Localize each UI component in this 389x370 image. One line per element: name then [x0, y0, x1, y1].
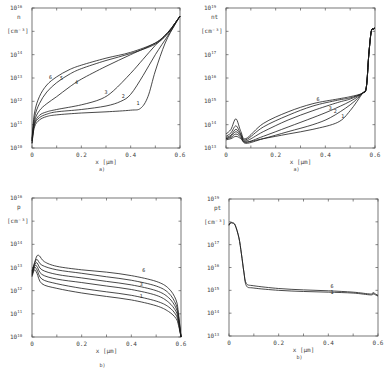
y-tick-label: 1016 — [10, 4, 23, 12]
y-tick-label: 1011 — [10, 120, 23, 128]
y-tick-label: 1013 — [204, 144, 217, 152]
x-tick-label: 0.2 — [76, 151, 87, 158]
plot-frame — [229, 199, 378, 336]
y-axis-name: p — [17, 203, 21, 211]
y-tick-label: 1017 — [207, 240, 220, 248]
y-tick-label: 1016 — [204, 74, 217, 82]
x-tick-label: 0.4 — [125, 151, 136, 158]
x-tick-label: 0 — [30, 340, 34, 347]
panel-caption: b) — [99, 362, 105, 368]
plot-frame — [226, 8, 375, 148]
panel-caption: a) — [293, 166, 299, 172]
x-axis-label: x [µm] — [290, 158, 312, 166]
y-tick-label: 1019 — [207, 195, 220, 203]
curve-label: 6 — [331, 283, 334, 289]
y-axis-unit: [cm⁻³] — [7, 27, 29, 34]
y-axis-unit: [cm⁻³] — [7, 217, 29, 224]
x-tick-label: 0.6 — [176, 340, 187, 347]
x-tick-label: 0.2 — [76, 340, 87, 347]
y-tick-label: 1016 — [10, 194, 23, 202]
x-tick-label: 0.6 — [370, 151, 381, 158]
x-tick-label: 0 — [224, 151, 228, 158]
x-tick-label: 0.6 — [373, 339, 384, 346]
y-tick-label: 1012 — [10, 286, 23, 294]
curve-5 — [32, 259, 181, 337]
y-tick-label: 1017 — [204, 50, 217, 58]
curve-label: 3 — [140, 281, 143, 287]
y-tick-label: 1016 — [207, 263, 220, 271]
y-tick-label: 1010 — [10, 144, 23, 152]
x-tick-label: 0.4 — [320, 151, 331, 158]
y-tick-label: 1014 — [10, 240, 23, 248]
curve-label: 1 — [331, 289, 334, 295]
x-axis-label: x [µm] — [95, 158, 117, 166]
chart-p-hole-density: 101010111012101310141016p[cm⁻³]00.20.40.… — [7, 194, 187, 369]
x-tick-label: 0.4 — [126, 340, 137, 347]
y-tick-label: 1013 — [207, 332, 220, 340]
curve-2 — [32, 267, 181, 337]
curve-label: 3 — [104, 89, 107, 95]
curve-label: 6 — [142, 267, 145, 273]
chart-nt-trapped-electron-density: 101310141015101610171019nt[cm⁻³]00.20.40… — [201, 4, 381, 173]
y-tick-label: 1013 — [10, 74, 23, 82]
y-tick-label: 1011 — [10, 309, 23, 317]
curve-5 — [226, 28, 375, 140]
y-tick-label: 1014 — [204, 120, 217, 128]
plot-frame — [32, 198, 181, 337]
y-tick-label: 1019 — [204, 4, 217, 12]
x-tick-label: 0 — [30, 151, 34, 158]
y-tick-label: 1014 — [207, 309, 220, 317]
curve-label: 1 — [137, 100, 140, 106]
y-tick-label: 1012 — [10, 97, 23, 105]
curve-3 — [226, 28, 375, 142]
curve-label: 6 — [316, 96, 319, 102]
plot-frame — [32, 8, 180, 148]
chart-pt-trapped-hole-density: 101310141015101610171019pt[cm⁻³]00.20.40… — [204, 195, 384, 361]
curve-label: 4 — [75, 79, 78, 85]
panel-caption: b) — [296, 354, 302, 360]
x-axis-label: x [µm] — [293, 346, 315, 354]
x-tick-label: 0.2 — [273, 339, 284, 346]
y-axis-unit: [cm⁻³] — [204, 218, 226, 225]
curve-label: 6 — [49, 74, 52, 80]
chart-n-electron-density: 101010111012101310141016n[cm⁻³]00.20.40.… — [7, 4, 186, 173]
curve-4 — [32, 263, 181, 337]
curve-5 — [32, 16, 180, 140]
curve-3 — [32, 265, 181, 337]
y-tick-label: 1015 — [204, 97, 217, 105]
curve-1 — [226, 28, 375, 142]
y-tick-label: 1010 — [10, 333, 23, 341]
curve-2 — [32, 16, 180, 143]
y-axis-name: nt — [211, 13, 219, 20]
y-tick-label: 1013 — [10, 263, 23, 271]
curve-label: 2 — [122, 93, 125, 99]
x-tick-label: 0.6 — [175, 151, 186, 158]
y-tick-label: 1015 — [207, 286, 220, 294]
curve-6 — [229, 223, 378, 296]
x-tick-label: 0 — [227, 339, 231, 346]
curve-4 — [226, 28, 375, 141]
curve-label: 1 — [140, 293, 143, 299]
y-tick-label: 1014 — [10, 50, 23, 58]
figure-canvas: 101010111012101310141016n[cm⁻³]00.20.40.… — [0, 0, 389, 370]
y-axis-name: n — [17, 13, 21, 20]
curve-1 — [32, 270, 181, 337]
x-tick-label: 0.2 — [270, 151, 281, 158]
curve-1 — [32, 16, 180, 143]
y-axis-unit: [cm⁻³] — [201, 27, 223, 34]
curve-1 — [229, 223, 378, 296]
panel-caption: a) — [99, 166, 105, 172]
curve-6 — [32, 16, 180, 139]
x-tick-label: 0.4 — [323, 339, 334, 346]
x-axis-label: x [µm] — [96, 347, 118, 355]
curve-label: 5 — [60, 75, 63, 81]
curve-label: 3 — [329, 105, 332, 111]
curve-label: 2 — [334, 108, 337, 114]
curve-label: 1 — [341, 113, 344, 119]
curve-2 — [226, 28, 375, 144]
y-axis-name: pt — [214, 204, 222, 212]
